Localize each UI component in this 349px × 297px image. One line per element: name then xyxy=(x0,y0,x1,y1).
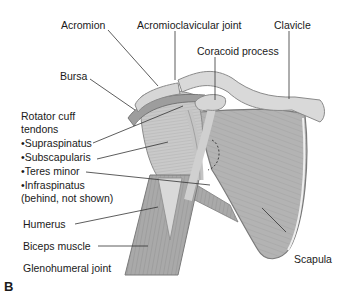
label-scapula: Scapula xyxy=(294,253,332,265)
label-glenohumeral-joint: Glenohumeral joint xyxy=(23,262,111,274)
label-bursa: Bursa xyxy=(60,70,87,82)
shoulder-anatomy-figure: Acromion Acromioclavicular joint Clavicl… xyxy=(0,0,349,297)
label-clavicle: Clavicle xyxy=(274,19,311,31)
label-supraspinatus: •Supraspinatus xyxy=(21,137,92,149)
label-rotator-cuff: Rotator cuff xyxy=(21,110,75,122)
label-acromion: Acromion xyxy=(61,19,105,31)
label-biceps-muscle: Biceps muscle xyxy=(23,240,91,252)
label-teres-minor: •Teres minor xyxy=(21,165,80,177)
scapula xyxy=(200,109,307,258)
label-subscapularis: •Subscapularis xyxy=(21,151,91,163)
label-tendons: tendons xyxy=(21,123,58,135)
label-humerus: Humerus xyxy=(23,218,66,230)
label-infraspinatus: •Infraspinatus xyxy=(21,179,85,191)
label-acromioclavicular-joint: Acromioclavicular joint xyxy=(137,19,241,31)
label-infraspinatus-note: (behind, not shown) xyxy=(21,192,113,204)
panel-letter: B xyxy=(4,279,13,294)
label-coracoid-process: Coracoid process xyxy=(197,45,279,57)
